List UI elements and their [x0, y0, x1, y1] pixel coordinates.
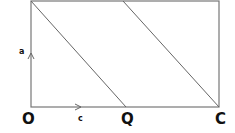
point-label-o: O	[22, 112, 35, 127]
outer-rectangle	[31, 1, 219, 107]
point-label-q: Q	[121, 112, 134, 127]
point-label-c: C	[215, 112, 226, 127]
vector-label-a: a	[19, 48, 24, 56]
vector-label-c: c	[78, 115, 83, 123]
diagonal-line-right	[123, 1, 219, 107]
diagonal-line-left	[31, 1, 126, 107]
diagram-canvas	[0, 0, 235, 133]
